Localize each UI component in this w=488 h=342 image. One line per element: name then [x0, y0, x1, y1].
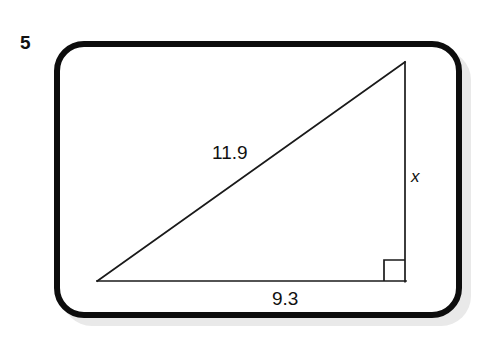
problem-number-label: 5 [20, 33, 31, 52]
hypotenuse-length-label: 11.9 [212, 143, 248, 162]
diagram-canvas: 11.9 x 9.3 [54, 41, 462, 318]
right-triangle-drawing [54, 41, 462, 318]
base-length-label: 9.3 [272, 289, 298, 308]
unknown-side-label: x [411, 168, 420, 185]
geometry-figure: 5 11.9 x 9.3 [0, 0, 488, 342]
triangle-hypotenuse-line [97, 62, 405, 281]
right-angle-marker-icon [384, 260, 405, 281]
